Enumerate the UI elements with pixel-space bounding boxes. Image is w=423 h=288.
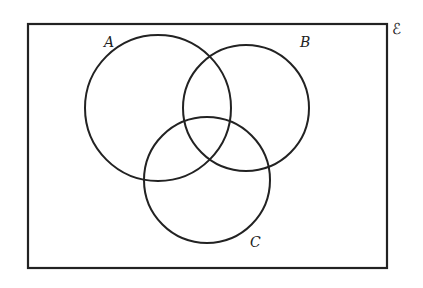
set-a-label: A — [102, 34, 114, 50]
set-b-circle — [183, 45, 309, 171]
universal-set-symbol: ℰ — [392, 20, 401, 38]
set-c-label: C — [250, 234, 261, 250]
venn-diagram: A B C ℰ — [0, 0, 423, 288]
universal-set-rect — [28, 24, 387, 268]
set-b-label: B — [299, 34, 310, 50]
